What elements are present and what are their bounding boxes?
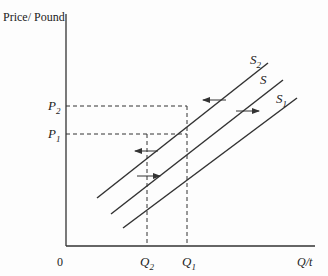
diagram-svg: Price/ Pound 0 Q/t P2 P1 Q2 Q1 S2 S S1	[0, 0, 328, 276]
x-axis-label: Q/t	[297, 255, 313, 269]
p2-label: P2	[47, 98, 61, 116]
curve-s	[111, 80, 283, 214]
q2-label: Q2	[140, 254, 154, 272]
curve-s2	[97, 63, 268, 198]
s2-label: S2	[250, 52, 262, 70]
s-label: S	[260, 72, 267, 87]
origin-label: 0	[57, 255, 63, 269]
supply-shift-diagram: Price/ Pound 0 Q/t P2 P1 Q2 Q1 S2 S S1	[0, 0, 328, 276]
s1-label: S1	[276, 91, 287, 109]
y-axis-label: Price/ Pound	[3, 10, 65, 24]
curve-s1	[123, 98, 297, 228]
p1-label: P1	[47, 126, 60, 144]
q1-label: Q1	[182, 254, 196, 272]
